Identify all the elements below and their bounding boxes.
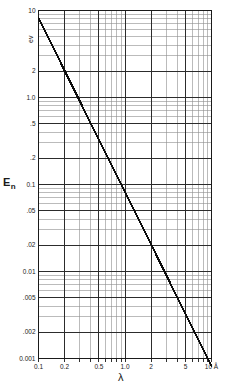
y-tick-label: .5 [30, 120, 35, 127]
y-tick-label: 0.01 [23, 268, 36, 275]
y-axis-label: En [3, 176, 16, 191]
x-tick-label: 0.2 [50, 363, 80, 370]
y-tick-label: 0.1 [26, 181, 35, 188]
chart-figure: En ev λ 1021.0.5.20.1.05.020.01.005.0020… [0, 0, 225, 390]
y-tick-label: 10 [28, 7, 35, 14]
y-tick-label: .002 [23, 328, 36, 335]
axis-tick-marks [39, 359, 212, 362]
y-tick-label: .05 [26, 207, 35, 214]
y-axis-label-sub: n [11, 182, 16, 191]
y-tick-label: .2 [30, 154, 35, 161]
y-axis-label-main: E [3, 176, 11, 188]
x-axis-label: λ [118, 371, 124, 383]
y-axis-unit-label: ev [27, 36, 34, 43]
x-tick-label: 10 Å [197, 363, 226, 370]
y-tick-label: .02 [26, 241, 35, 248]
y-tick-label: 0.001 [19, 355, 35, 362]
y-tick-label: .005 [23, 294, 36, 301]
major-gridlines [39, 11, 212, 359]
y-tick-label: 1.0 [26, 94, 35, 101]
y-tick-label: 2 [32, 67, 36, 74]
x-tick-label: 2 [136, 363, 166, 370]
